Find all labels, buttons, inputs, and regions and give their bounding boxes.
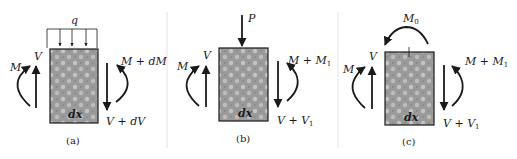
panel-c: M0 dx V M V + V1 M + M1 (c) [342,12,508,147]
right-shear-label: V + V1 [277,114,314,128]
beam-element-figure: q dx V M V + dV M + dM (a) P dx V M V + … [0,0,517,159]
left-moment-label: M [342,63,355,76]
moment-arrow-ccw-icon [187,66,199,106]
load-label-p: P [247,12,256,25]
moment-arrow-cw-icon [116,65,128,102]
right-shear-label: V + dV [106,115,146,128]
moment-arrow-cw-icon [287,63,298,101]
right-moment-label: M + dM [120,55,168,68]
left-moment-label: M [9,61,22,74]
moment-arrow-ccw-icon [353,67,365,108]
left-shear-label: V [34,50,43,63]
left-shear-label: V [369,50,378,63]
moment-arrow-cw-icon [452,66,463,106]
element-label-dx: dx [238,107,253,120]
applied-couple-arrow-icon [385,27,428,45]
distributed-load-icon [47,29,97,48]
caption-a: (a) [66,135,80,146]
panel-b: P dx V M V + V1 M + M1 (b) [176,12,331,144]
right-moment-label: M + M1 [464,55,508,69]
load-label-q: q [71,14,78,27]
load-label-m0: M0 [402,12,419,26]
element-label-dx: dx [404,111,419,124]
right-shear-label: V + V1 [443,117,480,131]
panel-a: q dx V M V + dV M + dM (a) [9,14,168,146]
caption-c: (c) [402,136,416,147]
element-label-dx: dx [68,108,83,121]
caption-b: (b) [236,133,250,144]
right-moment-label: M + M1 [287,54,331,68]
left-moment-label: M [176,60,189,73]
left-shear-label: V [203,49,212,62]
